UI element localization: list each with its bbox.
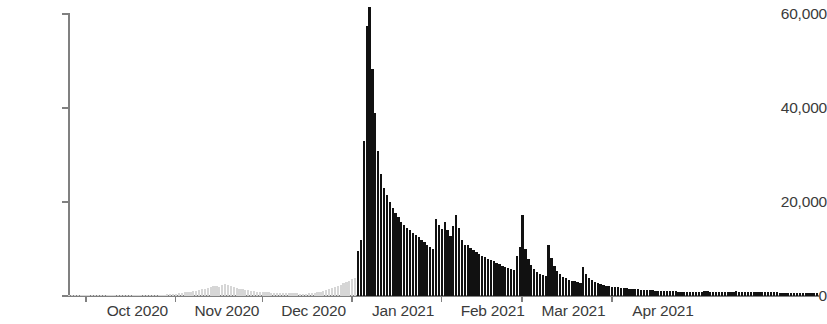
x-tick-jan-2021 xyxy=(351,296,353,302)
x-tick-label-mar-2021: Mar 2021 xyxy=(542,303,606,319)
plot-area xyxy=(68,0,819,296)
x-tick-nov-2020 xyxy=(175,296,177,302)
x-tick-label-nov-2020: Nov 2020 xyxy=(194,303,259,319)
x-tick-label-oct-2020: Oct 2020 xyxy=(107,303,168,319)
x-tick-label-feb-2021: Feb 2021 xyxy=(461,303,525,319)
x-tick-apr-2021 xyxy=(611,296,613,302)
x-tick-label-dec-2020: Dec 2020 xyxy=(281,303,346,319)
bar-chart: 60,000 40,000 20,000 0 Oct 2020Nov 2020D… xyxy=(0,0,827,324)
x-tick-oct-2020 xyxy=(85,296,87,302)
x-tick-label-apr-2021: Apr 2021 xyxy=(632,303,693,319)
x-tick-mar-2021 xyxy=(521,296,523,302)
x-tick-feb-2021 xyxy=(441,296,443,302)
x-tick-dec-2020 xyxy=(262,296,264,302)
x-tick-label-jan-2021: Jan 2021 xyxy=(372,303,434,319)
bar xyxy=(816,293,818,296)
